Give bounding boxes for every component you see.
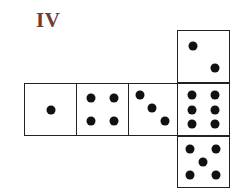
- pip-dot: [46, 105, 55, 114]
- pip-dot: [110, 117, 119, 126]
- pip-dot: [186, 145, 195, 154]
- die-face-middle-1: [24, 83, 77, 136]
- figure-label: IV: [36, 8, 60, 33]
- pip-dot: [135, 91, 144, 100]
- pip-dot: [211, 91, 220, 100]
- die-face-bottom: [177, 136, 230, 188]
- pip-dot: [210, 63, 219, 72]
- pip-dot: [211, 171, 220, 180]
- pip-dot: [110, 93, 119, 102]
- pip-dot: [160, 116, 169, 125]
- pip-dot: [211, 105, 220, 114]
- pip-dot: [189, 42, 198, 51]
- pip-dot: [86, 117, 95, 126]
- pip-dot: [211, 145, 220, 154]
- die-face-middle-3: [128, 83, 178, 136]
- die-face-middle-4: [177, 83, 230, 136]
- pip-dot: [211, 119, 220, 128]
- pip-dot: [187, 119, 196, 128]
- pip-dot: [198, 157, 207, 166]
- pip-dot: [186, 171, 195, 180]
- pip-dot: [187, 105, 196, 114]
- pip-dot: [187, 91, 196, 100]
- die-face-top: [177, 30, 230, 83]
- pip-dot: [147, 103, 156, 112]
- pip-dot: [86, 93, 95, 102]
- die-face-middle-2: [76, 83, 129, 136]
